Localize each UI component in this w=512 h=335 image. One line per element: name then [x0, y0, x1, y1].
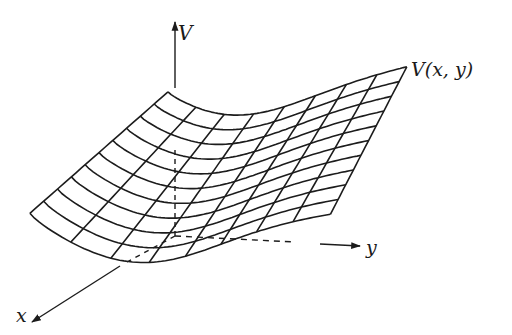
x-axis-label: x: [16, 304, 27, 326]
mesh-line-constant-x: [140, 96, 391, 144]
y-axis-label: y: [365, 236, 377, 258]
x-axis-hidden: [127, 236, 175, 262]
v-axis-label: V: [178, 21, 195, 45]
mesh-line-constant-x: [71, 170, 353, 218]
potential-surface-diagram: V y x V(x, y): [0, 0, 512, 335]
surface-label: V(x, y): [411, 58, 473, 80]
x-axis: [32, 266, 120, 322]
mesh-line-constant-y: [30, 92, 168, 214]
mesh-line-constant-x: [168, 67, 407, 115]
y-axis: [320, 244, 360, 246]
surface-mesh: [30, 67, 407, 263]
mesh-line-constant-x: [99, 141, 369, 189]
mesh-line-constant-x: [85, 155, 361, 203]
